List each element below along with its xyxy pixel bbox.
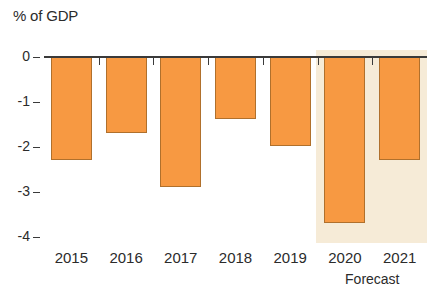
y-axis-tick-label: -2	[18, 139, 40, 153]
y-axis-tick-dash	[33, 147, 40, 148]
y-axis-tick-dash	[33, 102, 40, 103]
y-axis-tick-dash	[33, 57, 40, 58]
x-axis-tick	[318, 58, 319, 65]
x-axis: 2015201620172018201920202021	[44, 250, 427, 270]
x-axis-tick-label: 2021	[383, 250, 416, 265]
y-axis-tick-dash	[33, 237, 40, 238]
x-axis-tick	[372, 58, 373, 65]
bar	[51, 56, 92, 160]
bar	[270, 56, 311, 146]
x-axis-tick-label: 2015	[55, 250, 88, 265]
x-axis-tick-label: 2019	[274, 250, 307, 265]
x-axis-tick	[263, 58, 264, 65]
forecast-annotation-label: Forecast	[345, 272, 399, 286]
bar	[160, 56, 201, 187]
bar	[215, 56, 256, 119]
x-axis-tick-label: 2016	[109, 250, 142, 265]
bar-chart: % of GDP 0-1-2-3-4 201520162017201820192…	[0, 0, 427, 294]
y-axis-tick-dash	[33, 192, 40, 193]
y-axis-tick-value: 0	[22, 48, 30, 64]
y-axis-tick-label: 0	[22, 49, 40, 63]
bar	[324, 56, 365, 223]
y-axis-tick-label: -1	[18, 94, 40, 108]
x-axis-tick-label: 2017	[164, 250, 197, 265]
y-axis: 0-1-2-3-4	[0, 0, 44, 294]
x-axis-tick-label: 2020	[328, 250, 361, 265]
bar	[379, 56, 420, 160]
bar	[106, 56, 147, 133]
zero-baseline-axis	[44, 56, 427, 58]
y-axis-tick-value: -3	[18, 183, 30, 199]
x-axis-tick	[208, 58, 209, 65]
y-axis-tick-label: -4	[18, 229, 40, 243]
x-axis-tick	[99, 58, 100, 65]
y-axis-tick-value: -1	[18, 93, 30, 109]
y-axis-tick-value: -2	[18, 138, 30, 154]
x-axis-tick-label: 2018	[219, 250, 252, 265]
y-axis-tick-value: -4	[18, 228, 30, 244]
plot-area	[44, 56, 427, 243]
y-axis-tick-label: -3	[18, 184, 40, 198]
x-axis-tick	[153, 58, 154, 65]
